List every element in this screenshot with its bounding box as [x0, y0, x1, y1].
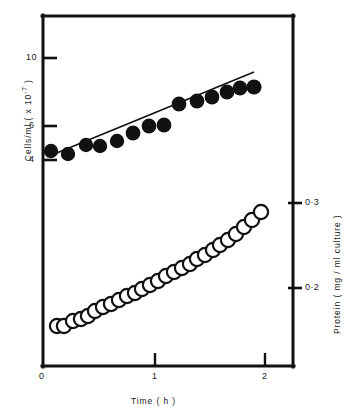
right-axis-ticks — [288, 203, 302, 288]
data-point-filled — [126, 126, 141, 141]
right-axis-tick-label-0-3: 0·3 — [305, 198, 319, 207]
cells-fit-line — [47, 72, 254, 157]
x-axis-ticks — [155, 353, 265, 366]
x-axis-tick-label-2: 2 — [262, 372, 267, 381]
data-point-filled — [205, 90, 220, 105]
chart-canvas — [0, 0, 351, 418]
left-axis-title-prefix: Cells/ml ( x 10 — [23, 94, 33, 161]
left-axis-title-suffix: ) — [23, 79, 33, 86]
protein-series-points — [50, 205, 268, 333]
x-axis-tick-label-1: 1 — [152, 372, 157, 381]
right-axis-title: Protein ( mg / ml culture ) — [333, 209, 342, 339]
data-point-open — [254, 205, 268, 219]
x-axis-title: Time ( h ) — [131, 397, 176, 406]
data-point-filled — [190, 94, 205, 109]
data-point-filled — [142, 119, 157, 134]
data-point-filled — [44, 144, 58, 158]
left-axis-title: Cells/ml ( x 10-7 ) — [22, 60, 32, 180]
data-point-filled — [157, 118, 172, 133]
data-point-filled — [172, 97, 187, 112]
data-point-filled — [246, 79, 261, 94]
left-axis-title-exponent: -7 — [21, 86, 28, 94]
data-point-filled — [233, 81, 248, 96]
cells-series-points — [44, 79, 262, 161]
right-axis-tick-label-0-2: 0·2 — [305, 283, 319, 292]
data-point-filled — [110, 134, 124, 148]
x-axis-tick-label-0: 0 — [39, 372, 44, 381]
figure-container: 10 6 4 0·3 0·2 0 1 2 Cells/ml ( x 10-7 )… — [0, 0, 351, 418]
data-point-filled — [93, 139, 107, 153]
data-point-filled — [79, 138, 93, 152]
data-point-filled — [61, 147, 75, 161]
data-point-filled — [220, 85, 235, 100]
